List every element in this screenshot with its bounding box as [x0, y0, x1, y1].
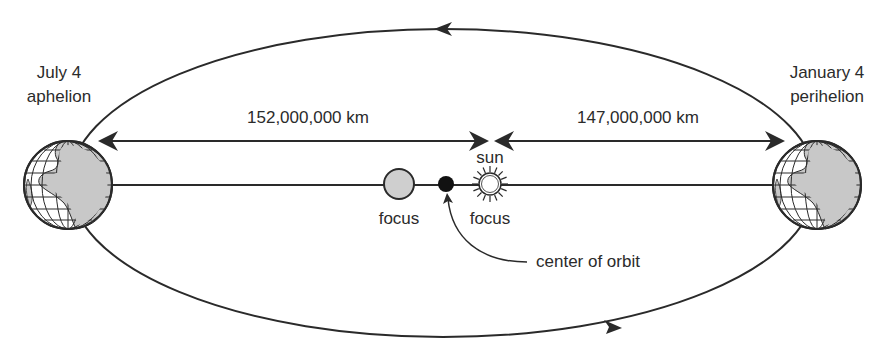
perihelion-date-label: January 4	[772, 63, 882, 83]
orbit-svg	[0, 0, 887, 350]
perihelion-distance-label: 147,000,000 km	[548, 108, 728, 128]
aphelion-name-label: aphelion	[14, 87, 104, 107]
sun-icon	[472, 166, 508, 202]
sun-label: sun	[470, 148, 510, 168]
aphelion-date-label: July 4	[14, 63, 104, 83]
perihelion-name-label: perihelion	[772, 87, 882, 107]
center-of-orbit-icon	[438, 176, 454, 192]
sun-focus-label: focus	[465, 209, 515, 229]
empty-focus-icon	[384, 169, 414, 199]
center-of-orbit-label: center of orbit	[536, 252, 666, 272]
aphelion-distance-label: 152,000,000 km	[218, 108, 398, 128]
empty-focus-label: focus	[374, 209, 424, 229]
earth-aphelion-icon	[24, 141, 112, 229]
orbit-diagram: July 4 aphelion January 4 perihelion 152…	[0, 0, 887, 350]
earth-perihelion-icon	[773, 141, 861, 229]
orbit-direction-arrow-bottom	[604, 320, 622, 334]
